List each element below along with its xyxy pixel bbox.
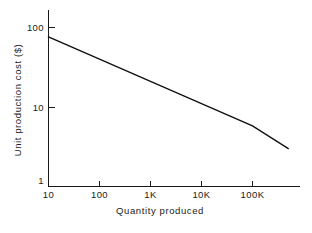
chart-figure: 100 10 1 10 100 1K 10K 100K Quantity pro… [0, 0, 312, 233]
y-tick-label-1: 1 [38, 175, 44, 186]
y-tick-marks [49, 28, 56, 187]
x-tick-label-10k: 10K [192, 189, 210, 200]
y-axis-title: Unit production cost ($) [12, 44, 23, 157]
axes-group [48, 10, 300, 187]
data-series-group [49, 37, 289, 149]
x-tick-label-100: 100 [91, 189, 108, 200]
y-tick-label-10: 10 [33, 102, 44, 113]
x-tick-marks [49, 181, 253, 187]
x-tick-label-10: 10 [43, 189, 54, 200]
series-line-unit-production-cost [49, 37, 289, 149]
y-tick-label-100: 100 [27, 22, 44, 33]
line-chart-canvas: 100 10 1 10 100 1K 10K 100K Quantity pro… [0, 0, 312, 233]
x-tick-label-1k: 1K [144, 189, 157, 200]
x-axis-title: Quantity produced [116, 205, 204, 216]
x-tick-label-100k: 100K [241, 189, 265, 200]
